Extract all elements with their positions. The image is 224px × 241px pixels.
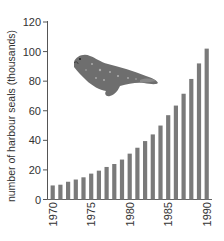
bar-1977 [105,167,109,200]
x-tick-label: 1980 [124,202,136,226]
bar-1972 [66,182,70,200]
seal-icon [74,55,158,96]
y-axis-label: number of harbour seals (thousands) [5,30,17,202]
bar-1984 [158,126,162,200]
x-tick-label: 1985 [162,202,174,226]
bar-1986 [174,106,178,200]
y-tick-label: 80 [29,75,41,87]
harbour-seal-bar-chart: number of harbour seals (thousands) 0204… [0,0,224,241]
bar-1980 [128,154,132,200]
bar-1975 [89,174,93,200]
y-tick-label: 60 [29,105,41,117]
bar-1988 [189,79,193,200]
bar-1971 [58,185,62,200]
bar-1970 [51,185,55,199]
bar-1978 [112,164,116,200]
y-tick-label: 40 [29,134,41,146]
bar-1973 [74,180,78,200]
x-axis-ticks: 19701975198019851990 [47,202,213,226]
bar-1979 [120,160,124,200]
y-tick-label: 0 [35,194,41,206]
bar-1985 [166,115,170,199]
bar-1983 [151,134,155,199]
bar-1990 [205,49,209,200]
bar-1982 [143,141,147,199]
x-tick-label: 1970 [47,202,59,226]
x-tick-label: 1990 [201,202,213,226]
x-tick-label: 1975 [85,202,97,226]
bar-1981 [135,148,139,200]
y-tick-label: 100 [23,46,41,58]
y-tick-label: 20 [29,164,41,176]
bar-1987 [182,94,186,200]
bar-1974 [81,177,85,199]
y-axis-ticks: 020406080100120 [23,16,48,206]
bar-1989 [197,63,201,199]
y-tick-label: 120 [23,16,41,28]
bar-1976 [97,171,101,200]
